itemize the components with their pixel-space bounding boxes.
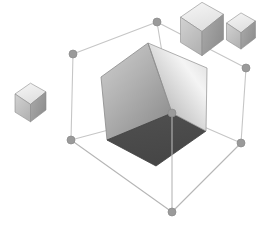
vertex-handle-left-lower[interactable] [67, 136, 75, 144]
vertex-handle-top[interactable] [153, 18, 161, 26]
vertex-handle-front-upper[interactable] [168, 109, 176, 117]
vertex-handle-right-upper[interactable] [242, 64, 250, 72]
vertex-handle-left-upper[interactable] [69, 50, 77, 58]
scene-canvas [0, 0, 268, 238]
scene-viewport [0, 0, 268, 238]
vertex-handle-right-lower[interactable] [237, 139, 245, 147]
vertex-handle-bottom[interactable] [168, 208, 176, 216]
